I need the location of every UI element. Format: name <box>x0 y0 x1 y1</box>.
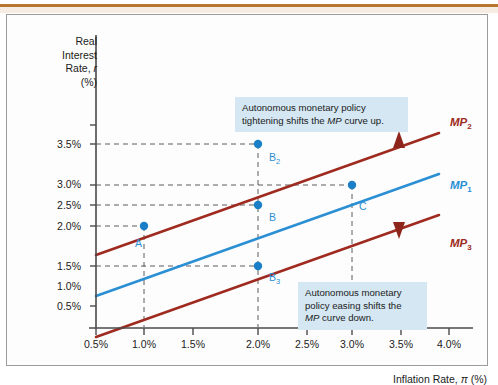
x-axis-title-text: Inflation Rate, <box>393 373 461 385</box>
y-axis-title-r-symbol: r <box>94 62 98 74</box>
y-tick-label-3-5: 3.5% <box>35 138 81 150</box>
curve-label-mp3-sub: 3 <box>467 243 471 252</box>
y-axis-title: Real Interest Rate, r (%) <box>19 35 97 89</box>
point-label-b2-sub: 2 <box>276 157 280 166</box>
point-label-a: A <box>135 237 142 249</box>
curve-label-mp1-sub: 1 <box>467 185 471 194</box>
callout-tightening-line-1: Autonomous monetary policy <box>242 102 366 113</box>
point-label-b3: B3 <box>269 271 280 286</box>
y-axis-title-line-1: Real <box>19 35 97 49</box>
x-tick-label-1-0: 1.0% <box>121 338 167 350</box>
y-axis-title-line-2: Interest <box>19 49 97 63</box>
y-tick-label-2-0: 2.0% <box>35 220 81 232</box>
callout-easing-line-2: policy easing shifts the <box>305 300 402 311</box>
top-rule-shadow <box>0 7 498 13</box>
x-tick-label-3-0: 3.0% <box>329 338 375 350</box>
callout-tightening-line-2-post: curve up. <box>342 115 384 126</box>
point-label-a-base: A <box>135 237 142 249</box>
x-axis-title-unit: (%) <box>468 373 487 385</box>
y-tick-label-1-0: 1.0% <box>35 280 81 292</box>
shift-arrow-up <box>393 131 405 183</box>
callout-easing-mp-symbol: MP <box>305 312 319 323</box>
y-axis-title-line-3: Rate, r <box>19 62 97 76</box>
y-tick-label-2-5: 2.5% <box>35 199 81 211</box>
point-label-c: C <box>359 200 367 212</box>
x-tick-label-4-0: 4.0% <box>426 338 472 350</box>
point-label-b2: B2 <box>269 151 280 166</box>
callout-easing-line-1: Autonomous monetary <box>305 287 402 298</box>
callout-tightening-mp-symbol: MP <box>327 115 341 126</box>
y-axis-title-rate-text: Rate, <box>65 62 93 74</box>
point-b2-marker <box>254 140 262 148</box>
callout-easing-line-3-post: curve down. <box>319 312 373 323</box>
callout-tightening: Autonomous monetary policy tightening sh… <box>235 97 408 132</box>
point-a-marker <box>140 222 148 230</box>
curve-label-mp2-sub: 2 <box>467 122 471 131</box>
y-tick-label-3-0: 3.0% <box>35 178 81 190</box>
y-axis-title-line-4: (%) <box>19 76 97 90</box>
x-tick-label-0-5: 0.5% <box>73 338 119 350</box>
point-c-marker <box>348 181 356 189</box>
curve-label-mp2-base: MP <box>450 116 467 128</box>
curve-label-mp1-base: MP <box>450 179 467 191</box>
x-tick-label-1-5: 1.5% <box>170 338 216 350</box>
curve-label-mp1: MP1 <box>450 179 472 194</box>
x-tick-label-2-5: 2.5% <box>284 338 330 350</box>
point-label-b2-base: B <box>269 151 276 163</box>
curve-mp1 <box>96 174 439 296</box>
point-b-marker <box>254 201 262 209</box>
point-label-b3-sub: 3 <box>276 277 280 286</box>
point-label-b-base: B <box>269 211 276 223</box>
chart-panel: 3.5% 3.0% 2.5% 2.0% 1.5% 1.0% 0.5% 0.5% … <box>6 14 488 366</box>
callout-easing: Autonomous monetary policy easing shifts… <box>298 282 427 330</box>
x-axis-title: Inflation Rate, π (%) <box>337 373 487 385</box>
point-label-c-base: C <box>359 200 367 212</box>
point-label-b3-base: B <box>269 271 276 283</box>
x-tick-label-3-5: 3.5% <box>378 338 424 350</box>
y-axis-ticks <box>90 125 96 306</box>
curve-label-mp3-base: MP <box>450 237 467 249</box>
curve-label-mp2: MP2 <box>450 116 472 131</box>
callout-tightening-line-2-pre: tightening shifts the <box>242 115 327 126</box>
y-tick-label-1-5: 1.5% <box>35 260 81 272</box>
x-tick-label-2-0: 2.0% <box>235 338 281 350</box>
point-label-b: B <box>269 211 276 223</box>
curve-label-mp3: MP3 <box>450 237 472 252</box>
curve-mp2 <box>96 133 439 255</box>
point-b3-marker <box>254 262 262 270</box>
x-axis-title-pi-symbol: π <box>461 373 468 385</box>
y-tick-label-0-5: 0.5% <box>35 300 81 312</box>
